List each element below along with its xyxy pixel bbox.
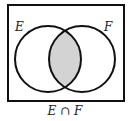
caption: E ∩ F [47,104,83,118]
venn-diagram: E F E ∩ F [0,0,130,121]
set-e-label: E [14,20,24,34]
set-f-label: F [103,20,113,34]
